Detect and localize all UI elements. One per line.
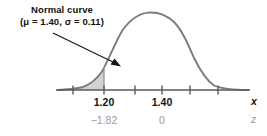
normal-curve-figure: Normal curve (μ = 1.40, σ = 0.11) 1.20 1… — [0, 0, 267, 136]
x-axis-label: x — [251, 95, 257, 107]
annotation-arrow — [53, 33, 121, 67]
z-tick-label-neg-1-82: −1.82 — [80, 114, 128, 126]
annotation-title: Normal curve — [8, 4, 116, 16]
annotation-params: (μ = 1.40, σ = 0.11) — [4, 16, 120, 28]
x-tick-label-1-40: 1.40 — [142, 96, 182, 108]
z-tick-label-0: 0 — [146, 114, 178, 126]
x-tick-label-1-20: 1.20 — [84, 96, 124, 108]
z-axis-label: z — [251, 113, 256, 125]
